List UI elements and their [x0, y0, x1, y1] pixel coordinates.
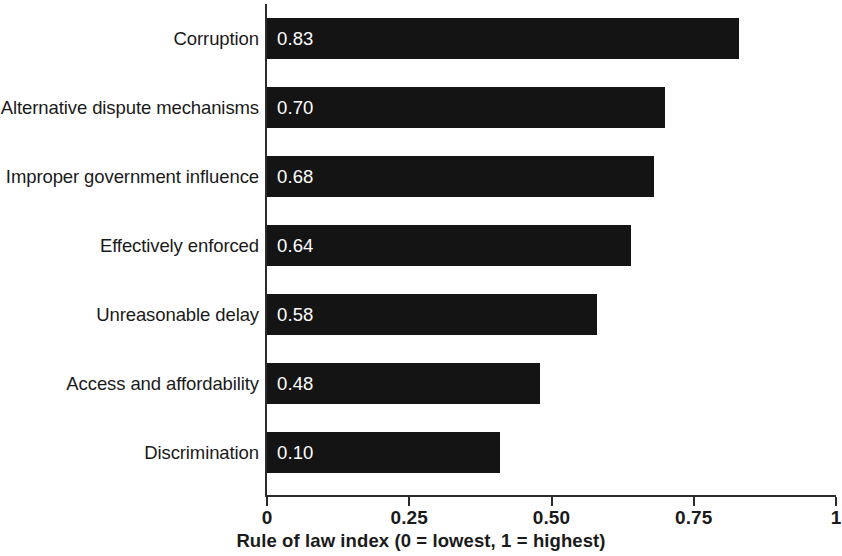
- x-axis-tick-label: 0.25: [391, 507, 428, 529]
- x-axis-title: Rule of law index (0 = lowest, 1 = highe…: [0, 530, 842, 552]
- x-axis-tick: [835, 497, 837, 506]
- bar: 0.10: [267, 432, 500, 473]
- x-axis-tick: [408, 497, 410, 506]
- bar: 0.68: [267, 156, 654, 197]
- category-label: Unreasonable delay: [96, 294, 259, 335]
- category-label: Access and affordability: [66, 363, 259, 404]
- bar-value-label: 0.83: [277, 18, 313, 59]
- x-axis-tick-label: 0: [262, 507, 273, 529]
- category-label: Improper government influence: [6, 156, 259, 197]
- plot-area: Corruption0.83Alternative dispute mechan…: [0, 0, 842, 556]
- bar: 0.64: [267, 225, 631, 266]
- bar-row: Discrimination0.10: [0, 432, 842, 473]
- bar-row: Alternative dispute mechanisms0.70: [0, 87, 842, 128]
- bar-value-label: 0.70: [277, 87, 313, 128]
- bar: 0.58: [267, 294, 597, 335]
- category-label: Alternative dispute mechanisms: [1, 87, 259, 128]
- category-label: Discrimination: [144, 432, 259, 473]
- bar-value-label: 0.58: [277, 294, 313, 335]
- bar-row: Effectively enforced0.64: [0, 225, 842, 266]
- x-axis-tick: [693, 497, 695, 506]
- bar: 0.48: [267, 363, 540, 404]
- category-label: Effectively enforced: [100, 225, 259, 266]
- category-label: Corruption: [174, 18, 259, 59]
- x-axis-tick-label: 1: [831, 507, 842, 529]
- bar: 0.70: [267, 87, 665, 128]
- bar-row: Access and affordability0.48: [0, 363, 842, 404]
- bar-row: Unreasonable delay0.58: [0, 294, 842, 335]
- x-axis-tick: [551, 497, 553, 506]
- bar-value-label: 0.68: [277, 156, 313, 197]
- x-axis-tick-label: 0.50: [533, 507, 570, 529]
- x-axis-tick: [266, 497, 268, 506]
- bar: 0.83: [267, 18, 739, 59]
- bar-row: Improper government influence0.68: [0, 156, 842, 197]
- bar-value-label: 0.64: [277, 225, 313, 266]
- bar-value-label: 0.10: [277, 432, 313, 473]
- horizontal-bar-chart: Corruption0.83Alternative dispute mechan…: [0, 0, 842, 556]
- x-axis-tick-label: 0.75: [675, 507, 712, 529]
- bar-row: Corruption0.83: [0, 18, 842, 59]
- bar-value-label: 0.48: [277, 363, 313, 404]
